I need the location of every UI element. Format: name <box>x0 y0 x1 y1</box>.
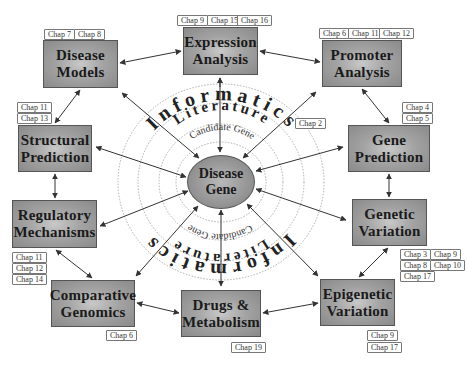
node-label: Promoter <box>331 47 394 64</box>
epigenetic-variation-node: Epigenetic Variation <box>320 279 395 326</box>
chapter-tag: Chap 10 <box>430 260 465 271</box>
chapter-tag: Chap 14 <box>12 274 47 285</box>
disease-models-node: Disease Models <box>43 40 118 88</box>
node-label: Prediction <box>355 149 423 166</box>
structural-prediction-node: Structural Prediction <box>18 125 92 172</box>
chapter-tag: Chap 5 <box>402 113 433 124</box>
chapter-tag: Chap 8 <box>400 260 431 271</box>
arrow-disease-models-expression <box>120 51 181 63</box>
node-label: Regulatory <box>18 207 92 224</box>
node-label: Analysis <box>193 51 249 68</box>
arrow-expression-promoter <box>260 51 320 62</box>
node-label: Structural <box>21 132 90 149</box>
node-label: Variation <box>326 303 388 320</box>
chapter-tag: Chap 8 <box>74 29 105 40</box>
chapter-tag: Chap 9 <box>177 15 208 26</box>
chapter-tag: Chap 9 <box>430 249 461 260</box>
comparative-genomics-node: Comparative Genomics <box>51 280 135 327</box>
node-label: Drugs & <box>193 297 250 314</box>
arrow-structural-disease-models <box>55 90 80 123</box>
arrow-comparative-regulatory <box>56 250 92 278</box>
genetic-variation-node: Genetic Variation <box>352 199 427 246</box>
candidate-gene-bottom-label: Candidate Gene <box>184 223 255 243</box>
arrow-genetic-epigenetic <box>359 248 388 277</box>
node-label: Prediction <box>21 149 89 166</box>
chapter-tag: Chap 6 <box>319 28 350 39</box>
regulatory-mechanisms-node: Regulatory Mechanisms <box>12 200 97 248</box>
informatics-chapter-tag: Chap 2 <box>295 118 326 129</box>
node-label: Variation <box>358 223 420 240</box>
arrow-promoter-gene-prediction <box>362 89 389 123</box>
node-label: Metabolism <box>182 314 260 331</box>
node-label: Gene <box>372 132 406 149</box>
node-label: Genomics <box>61 304 126 321</box>
drugs-metabolism-node: Drugs & Metabolism <box>181 290 261 337</box>
chapter-tag: Chap 3 <box>400 249 431 260</box>
arrow-drugs-comparative <box>137 303 179 313</box>
node-label: Models <box>57 64 105 81</box>
expression-analysis-node: Expression Analysis <box>183 27 258 75</box>
center-label-line2: Gene <box>205 182 236 198</box>
chapter-tag: Chap 6 <box>106 330 137 341</box>
chapter-tag: Chap 12 <box>12 263 47 274</box>
chapter-tag: Chap 9 <box>367 330 398 341</box>
arrow-center-structural <box>96 147 186 177</box>
chapter-tag: Chap 11 <box>348 28 383 39</box>
disease-gene-node: Disease Gene <box>187 155 255 209</box>
chapter-tag: Chap 12 <box>379 28 414 39</box>
node-label: Analysis <box>334 64 390 81</box>
disease-gene-diagram: Informatics Literature Candidate Gene In… <box>0 0 468 365</box>
chapter-tag: Chap 17 <box>400 271 435 282</box>
gene-prediction-node: Gene Prediction <box>348 125 430 172</box>
arrow-center-gene-prediction <box>256 147 343 171</box>
chapter-tag: Chap 13 <box>17 113 52 124</box>
node-label: Epigenetic <box>323 286 393 303</box>
node-label: Genetic <box>364 206 415 223</box>
arrow-epigenetic-drugs <box>263 303 318 313</box>
promoter-analysis-node: Promoter Analysis <box>322 40 402 87</box>
chapter-tag: Chap 11 <box>17 102 52 113</box>
node-label: Mechanisms <box>14 224 96 241</box>
arrow-center-genetic-variation <box>256 189 346 220</box>
chapter-tag: Chap 4 <box>402 102 433 113</box>
chapter-tag: Chap 11 <box>12 252 47 263</box>
node-label: Expression <box>184 34 257 51</box>
chapter-tag: Chap 7 <box>44 29 75 40</box>
node-label: Comparative <box>50 287 136 304</box>
center-label-line1: Disease <box>199 166 243 182</box>
chapter-tag: Chap 16 <box>237 15 272 26</box>
candidate-gene-top-label: Candidate Gene <box>187 121 258 141</box>
chapter-tag: Chap 19 <box>231 342 266 353</box>
chapter-tag: Chap 17 <box>367 342 402 353</box>
node-label: Disease <box>56 47 105 64</box>
